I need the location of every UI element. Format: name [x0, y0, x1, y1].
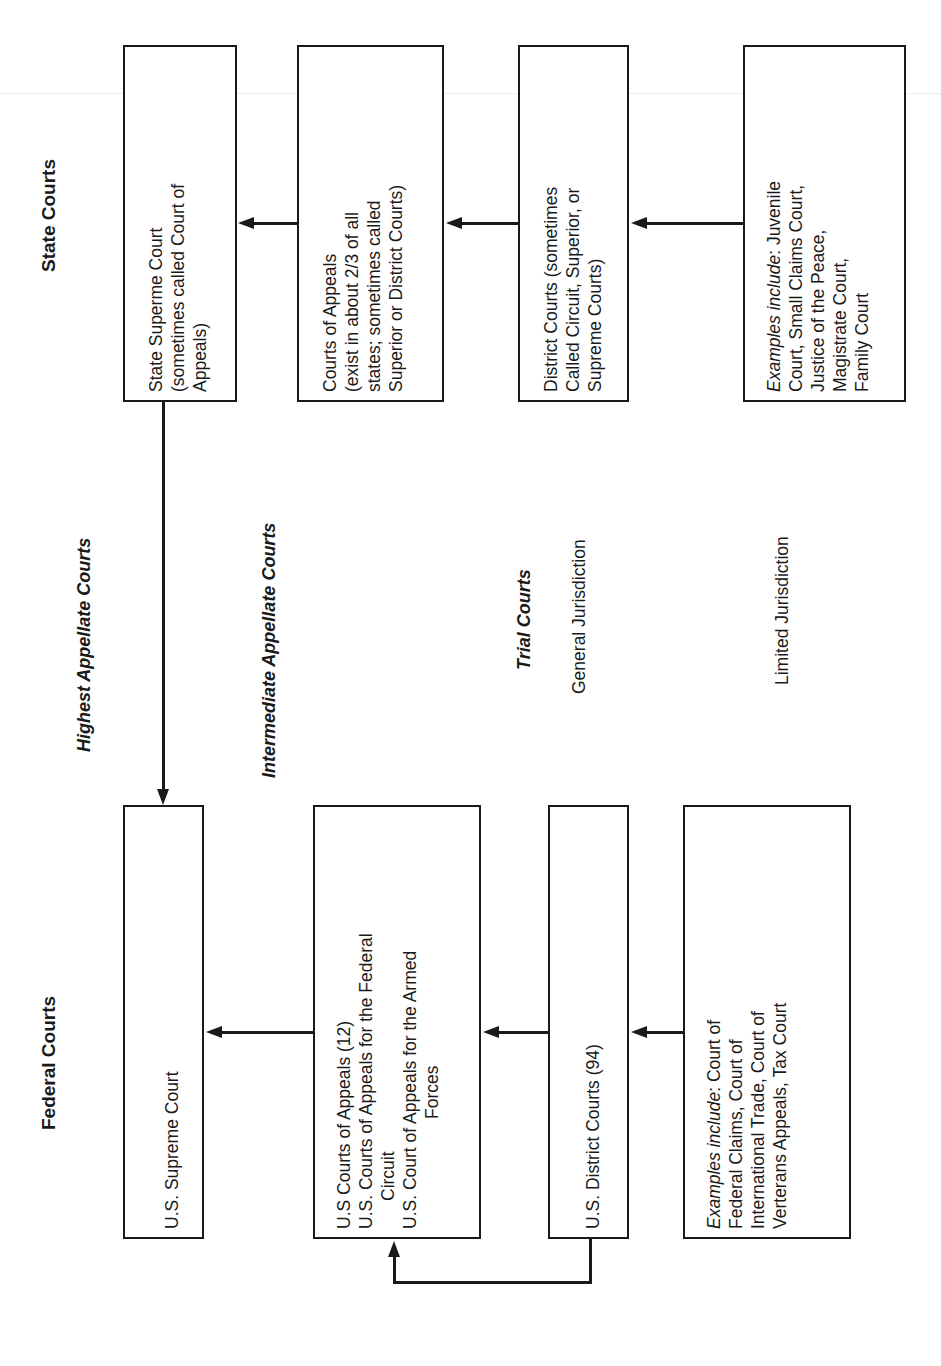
box-line: (sometimes called Court of	[167, 184, 189, 392]
box-line: : Court of	[704, 1020, 724, 1092]
box-line: Circuit	[377, 1151, 399, 1229]
box-line: Called Circuit, Superior, or	[562, 187, 584, 392]
box-line: Courts of Appeals	[319, 185, 341, 392]
box-line: U.S. Supreme Court	[161, 1071, 183, 1229]
box-line: : Juvenile	[764, 181, 784, 255]
arrowhead-left-icon	[446, 217, 462, 229]
box-line: State Superme Court	[145, 184, 167, 392]
state-supreme-court-box: State Superme Court (sometimes called Co…	[123, 45, 237, 402]
box-line: Superior or District Courts)	[385, 185, 407, 392]
arrowhead-left-icon	[631, 1026, 647, 1038]
trial-courts-label: Trial Courts	[514, 569, 535, 670]
intermediate-appellate-label: Intermediate Appellate Courts	[259, 523, 280, 778]
limited-jurisdiction-label: Limited Jurisdiction	[772, 536, 793, 685]
us-courts-of-appeals-box: U.S Courts of Appeals (12) U.S. Courts o…	[313, 805, 481, 1239]
box-line: Verterans Appeals, Tax Court	[769, 1003, 791, 1229]
federal-limited-jurisdiction-box: Examples include: Court of Federal Claim…	[683, 805, 851, 1239]
arrow-federal-limited-to-district	[645, 1031, 683, 1034]
arrowhead-left-icon	[631, 217, 647, 229]
arrowhead-left-icon	[483, 1026, 499, 1038]
us-district-courts-box: U.S. District Courts (94)	[548, 805, 629, 1239]
highest-appellate-label: Highest Appellate Courts	[74, 538, 95, 752]
box-line: Forces	[421, 1066, 443, 1229]
connector-up	[393, 1256, 396, 1284]
examples-include-label: Examples include	[704, 1092, 724, 1229]
state-courts-heading: State Courts	[38, 159, 60, 272]
arrowhead-left-icon	[238, 217, 254, 229]
state-courts-of-appeals-box: Courts of Appeals (exist in about 2/3 of…	[297, 45, 444, 402]
arrow-state-district-to-appeals	[460, 222, 518, 225]
state-limited-jurisdiction-box: Examples include: Juvenile Court, Small …	[743, 45, 906, 402]
arrowhead-down-icon	[157, 789, 169, 805]
box-line: U.S. District Courts (94)	[582, 1044, 604, 1229]
examples-include-label: Examples include	[764, 255, 784, 392]
box-line: International Trade, Court of	[747, 1003, 769, 1229]
arrow-state-supreme-to-us-supreme	[162, 402, 165, 790]
box-line: Justice of the Peace,	[807, 181, 829, 392]
state-district-courts-box: District Courts (sometimes Called Circui…	[518, 45, 629, 402]
arrow-state-appeals-to-supreme	[252, 222, 297, 225]
general-jurisdiction-label: General Jurisdiction	[569, 539, 590, 694]
arrowhead-up-icon	[388, 1241, 400, 1257]
box-line: Court, Small Claims Court,	[785, 181, 807, 392]
box-line: U.S Courts of Appeals (12)	[333, 933, 355, 1229]
box-line: Appeals)	[189, 184, 211, 392]
box-line: Federal Claims, Court of	[725, 1003, 747, 1229]
box-line: (exist in about 2/3 of all	[341, 185, 363, 392]
box-line: states; sometimes called	[363, 185, 385, 392]
connector-district-down	[589, 1239, 592, 1284]
arrow-federal-district-to-appeals	[497, 1031, 548, 1034]
federal-courts-heading: Federal Courts	[38, 996, 60, 1130]
arrow-state-limited-to-district	[645, 222, 743, 225]
box-line: U.S. Court of Appeals for the Armed	[399, 933, 421, 1229]
us-supreme-court-box: U.S. Supreme Court	[123, 805, 204, 1239]
connector-bottom	[393, 1281, 592, 1284]
box-line: District Courts (sometimes	[540, 187, 562, 392]
box-line: Supreme Courts)	[584, 187, 606, 392]
arrowhead-left-icon	[206, 1026, 222, 1038]
arrow-federal-appeals-to-supreme	[220, 1031, 313, 1034]
box-line: U.S. Courts of Appeals for the Federal	[355, 933, 377, 1229]
box-line: Family Court	[851, 181, 873, 392]
box-line: Magistrate Court,	[829, 181, 851, 392]
